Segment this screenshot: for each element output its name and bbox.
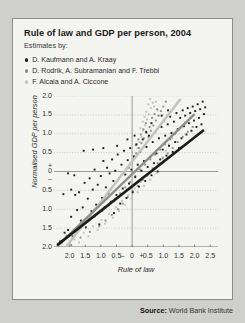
data-point <box>85 226 87 228</box>
data-point <box>191 130 193 132</box>
data-point <box>200 123 202 125</box>
plot-svg <box>54 96 218 247</box>
data-point <box>197 103 199 105</box>
data-point <box>109 172 111 174</box>
data-point <box>92 225 94 227</box>
legend-label: F. Alcala and A. Ciccone <box>32 78 108 86</box>
data-point <box>165 150 167 152</box>
data-point <box>154 113 156 115</box>
data-point <box>108 213 110 215</box>
data-point <box>117 208 119 210</box>
data-point <box>124 186 126 188</box>
y-tick-label: 1.0 <box>36 205 52 213</box>
data-point <box>166 155 168 157</box>
source-label: Source: <box>140 306 167 315</box>
legend-item-kaufmann: D. Kaufmann and A. Kraay <box>25 56 116 64</box>
data-point <box>144 180 146 182</box>
data-point <box>83 150 85 152</box>
data-point <box>141 142 143 144</box>
data-point <box>141 136 143 138</box>
data-point <box>117 154 119 156</box>
data-point <box>151 174 153 176</box>
legend-label: D. Kaufmann and A. Kraay <box>32 56 116 64</box>
data-point <box>194 110 196 112</box>
data-point <box>62 193 64 195</box>
data-point <box>121 200 123 202</box>
data-point <box>132 191 134 193</box>
data-point <box>129 147 131 149</box>
data-point <box>78 242 80 244</box>
data-point <box>149 98 151 100</box>
data-point <box>114 170 116 172</box>
data-point <box>151 122 153 124</box>
data-point <box>198 117 200 119</box>
data-point <box>112 217 114 219</box>
data-point <box>156 108 158 110</box>
data-point <box>189 112 191 114</box>
data-point <box>78 191 80 193</box>
data-point <box>142 128 144 130</box>
data-point <box>182 109 184 111</box>
data-point <box>145 122 147 124</box>
data-point <box>184 115 186 117</box>
data-point <box>138 147 140 149</box>
data-point <box>67 229 69 231</box>
legend-marker-icon <box>25 80 28 83</box>
data-point <box>173 121 175 123</box>
data-point <box>137 138 139 140</box>
data-point <box>87 235 89 237</box>
data-point <box>193 120 195 122</box>
data-point <box>100 175 102 177</box>
data-point <box>126 197 128 199</box>
x-axis-tick-labels: 2.01.51.00.500.51.01.52.02.5–+ <box>54 252 218 264</box>
data-point <box>192 126 194 128</box>
data-point <box>142 121 144 123</box>
data-point <box>174 141 176 143</box>
data-point <box>82 206 84 208</box>
data-point <box>167 123 169 125</box>
data-point <box>83 232 85 234</box>
data-point <box>127 194 129 196</box>
data-point <box>179 117 181 119</box>
data-point <box>144 164 146 166</box>
data-point <box>126 138 128 140</box>
data-point <box>157 171 159 173</box>
data-point <box>153 162 155 164</box>
data-point <box>92 189 94 191</box>
data-point <box>80 237 82 239</box>
data-point <box>146 146 148 148</box>
data-point <box>148 135 150 137</box>
x-sign-plus: + <box>138 252 146 260</box>
legend-item-rodrik: D. Rodrik, A. Subramanian and F. Trebbi <box>25 67 159 75</box>
data-point <box>73 174 75 176</box>
data-point <box>149 126 151 128</box>
data-point <box>171 132 173 134</box>
data-point <box>67 172 69 174</box>
data-point <box>169 116 171 118</box>
data-point <box>70 216 72 218</box>
data-point <box>199 108 201 110</box>
x-axis-title: Rule of law <box>54 265 218 274</box>
data-point <box>167 109 169 111</box>
data-point <box>128 183 130 185</box>
data-point <box>155 101 157 103</box>
data-point <box>176 112 178 114</box>
x-tick-label: 1.5 <box>77 252 93 260</box>
data-point <box>165 101 167 103</box>
data-point <box>181 137 183 139</box>
data-point <box>192 106 194 108</box>
data-point <box>203 113 205 115</box>
data-point <box>70 244 72 246</box>
data-point <box>167 152 169 154</box>
data-point <box>116 145 118 147</box>
data-point <box>147 103 149 105</box>
x-tick-label: 1.0 <box>155 252 171 260</box>
data-point <box>152 141 154 143</box>
data-point <box>151 117 153 119</box>
data-point <box>162 149 164 151</box>
x-tick-label: 1.5 <box>171 252 187 260</box>
data-point <box>98 225 100 227</box>
data-point <box>155 120 157 122</box>
data-point <box>172 147 174 149</box>
data-point <box>142 138 144 140</box>
